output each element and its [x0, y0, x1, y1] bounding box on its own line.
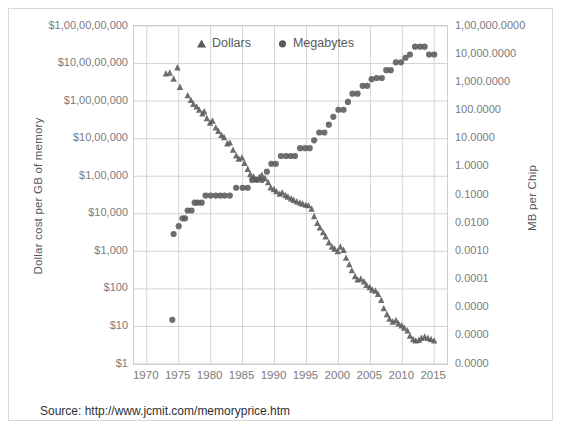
x-tick-1995: 1995 [293, 369, 319, 381]
data-point-megabytes [422, 44, 428, 50]
data-point-dollars [326, 239, 332, 245]
data-point-megabytes [330, 114, 336, 120]
chart-legend: Dollars Megabytes [196, 36, 354, 50]
y-right-tick-7: 0.0100 [455, 217, 545, 228]
y-left-tick-2: $1,00,00,000 [24, 95, 128, 106]
circle-marker-icon [277, 38, 288, 49]
series-megabytes-markers [169, 44, 437, 323]
gridlines-group [134, 26, 447, 364]
legend-label-megabytes: Megabytes [293, 36, 354, 50]
y-axis-right-ticks: 1,00,000.000010,000.00001,000.0000100.00… [455, 25, 545, 365]
data-point-megabytes [326, 122, 332, 128]
x-tick-2000: 2000 [325, 369, 351, 381]
y-right-tick-5: 1.0000 [455, 160, 545, 171]
data-point-megabytes [398, 59, 404, 65]
data-point-megabytes [171, 231, 177, 237]
y-left-tick-6: $1,000 [24, 245, 128, 256]
x-axis-ticks: 1970197519801985199019952000200520102015 [133, 369, 448, 387]
data-point-megabytes [307, 145, 313, 151]
data-point-dollars [184, 92, 190, 98]
data-point-megabytes [176, 223, 182, 229]
data-point-dollars [177, 84, 183, 90]
data-point-megabytes [199, 200, 205, 206]
x-tick-1980: 1980 [197, 369, 223, 381]
data-point-megabytes [340, 107, 346, 113]
y-right-tick-11: 0.0000 [455, 329, 545, 340]
y-left-tick-7: $100 [24, 282, 128, 293]
data-point-dollars [346, 261, 352, 267]
y-left-tick-0: $1,00,00,00,000 [24, 20, 128, 31]
plot-area [133, 25, 448, 365]
scatter-plot-svg [134, 26, 447, 364]
x-tick-2005: 2005 [357, 369, 383, 381]
source-note: Source: http://www.jcmit.com/memoryprice… [40, 404, 290, 418]
footer-strip [8, 424, 553, 444]
data-point-megabytes [227, 192, 233, 198]
y-right-tick-6: 0.1000 [455, 189, 545, 200]
legend-label-dollars: Dollars [212, 36, 251, 50]
y-right-tick-10: 0.0000 [455, 301, 545, 312]
data-point-megabytes [292, 153, 298, 159]
y-left-tick-9: $1 [24, 358, 128, 369]
y-right-tick-12: 0.0000 [455, 358, 545, 369]
data-point-dollars [245, 165, 251, 171]
y-left-tick-4: $1,00,000 [24, 170, 128, 181]
data-point-megabytes [431, 51, 437, 57]
y-right-tick-1: 10,000.0000 [455, 48, 545, 59]
data-point-dollars [381, 305, 387, 311]
memory-price-chart-figure: Dollar cost per GB of memory MB per Chip… [0, 0, 574, 446]
data-point-megabytes [264, 169, 270, 175]
data-point-dollars [349, 267, 355, 273]
triangle-marker-icon [196, 38, 207, 49]
y-right-tick-2: 1,000.0000 [455, 76, 545, 87]
data-point-megabytes [345, 99, 351, 105]
y-left-tick-5: $10,000 [24, 207, 128, 218]
data-point-megabytes [379, 75, 385, 81]
y-right-tick-0: 1,00,000.0000 [455, 20, 545, 31]
data-point-megabytes [321, 129, 327, 135]
data-point-megabytes [273, 161, 279, 167]
data-point-megabytes [364, 83, 370, 89]
y-right-tick-8: 0.0010 [455, 245, 545, 256]
data-point-dollars [343, 254, 349, 260]
data-point-megabytes [388, 67, 394, 73]
y-right-tick-9: 0.0001 [455, 273, 545, 284]
data-point-megabytes [233, 185, 239, 191]
data-point-megabytes [354, 91, 360, 97]
y-axis-left-ticks: $1,00,00,00,000$10,00,00,000$1,00,00,000… [24, 25, 128, 365]
data-point-megabytes [407, 51, 413, 57]
x-tick-1975: 1975 [165, 369, 191, 381]
y-left-tick-3: $10,00,000 [24, 132, 128, 143]
y-left-tick-8: $10 [24, 320, 128, 331]
y-right-tick-3: 100.0000 [455, 104, 545, 115]
y-right-tick-4: 10.0000 [455, 132, 545, 143]
data-point-megabytes [245, 185, 251, 191]
data-point-megabytes [259, 177, 265, 183]
legend-item-dollars: Dollars [196, 36, 251, 50]
x-tick-1970: 1970 [133, 369, 159, 381]
data-point-megabytes [311, 137, 317, 143]
x-tick-1985: 1985 [229, 369, 255, 381]
x-tick-1990: 1990 [261, 369, 287, 381]
data-point-megabytes [188, 207, 194, 213]
data-point-dollars [230, 146, 236, 152]
data-point-megabytes [182, 215, 188, 221]
data-point-megabytes [169, 317, 175, 323]
x-tick-2015: 2015 [420, 369, 446, 381]
data-point-dollars [167, 69, 173, 75]
y-left-tick-1: $10,00,00,000 [24, 57, 128, 68]
data-point-dollars [170, 75, 176, 81]
data-point-dollars [378, 296, 384, 302]
legend-item-megabytes: Megabytes [277, 36, 354, 50]
x-tick-2010: 2010 [388, 369, 414, 381]
data-point-dollars [174, 64, 180, 70]
